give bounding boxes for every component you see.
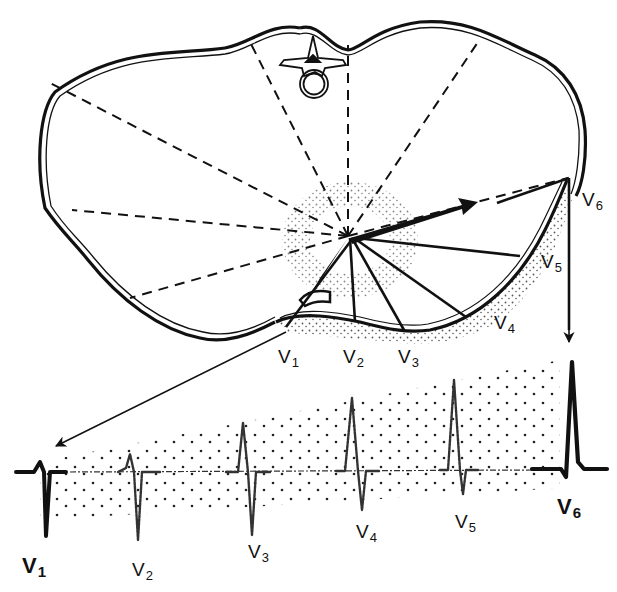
chest-label-v3: V3 [398, 347, 419, 369]
label-base: V [356, 521, 369, 542]
label-sub: 2 [146, 568, 153, 583]
label-sub: 2 [357, 355, 364, 370]
label-base: V [278, 346, 291, 367]
label-sub: 3 [412, 355, 419, 370]
ecg-label-v4: V4 [356, 522, 377, 544]
ecg-label-v1: V1 [22, 555, 46, 579]
label-base: V [494, 312, 507, 333]
ecg-label-v3: V3 [248, 542, 269, 564]
label-sub: 1 [38, 563, 46, 580]
label-sub: 4 [508, 321, 515, 336]
chest-label-v2: V2 [343, 347, 364, 369]
label-base: V [541, 251, 554, 272]
label-base: V [398, 346, 411, 367]
label-sub: 5 [469, 520, 476, 535]
label-sub: 6 [573, 504, 581, 521]
ecg-stipple-band [40, 360, 560, 520]
label-base: V [343, 346, 356, 367]
label-base: V [132, 559, 145, 580]
chest-label-v1: V1 [278, 347, 299, 369]
label-base: V [557, 494, 572, 519]
ecg-label-v2: V2 [132, 560, 153, 582]
label-base: V [248, 541, 261, 562]
label-sub: 4 [370, 530, 377, 545]
label-sub: 1 [292, 355, 299, 370]
label-sub: 3 [262, 550, 269, 565]
label-base: V [22, 553, 37, 578]
label-sub: 5 [555, 260, 562, 275]
ecg-label-v6: V6 [557, 496, 581, 520]
chest-label-v6: V6 [582, 190, 603, 212]
chest-label-v5: V5 [541, 252, 562, 274]
chest-label-v4: V4 [494, 313, 515, 335]
diagram-canvas [0, 0, 617, 592]
label-sub: 6 [596, 198, 603, 213]
label-base: V [455, 511, 468, 532]
label-base: V [582, 189, 595, 210]
ecg-label-v5: V5 [455, 512, 476, 534]
